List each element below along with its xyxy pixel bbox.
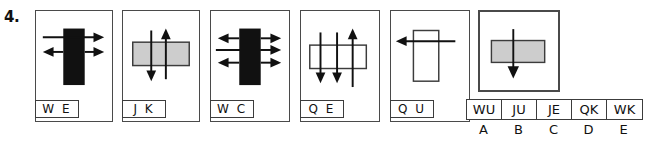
figure-panel-3-label: W C <box>210 100 254 118</box>
figure-panel-2[interactable]: J K <box>122 10 200 122</box>
answer-options: WU JU JE QK WK <box>466 99 643 120</box>
figure-panel-question[interactable] <box>478 10 560 92</box>
figure-panel-2-label: J K <box>122 100 166 118</box>
answer-option-c[interactable]: JE <box>537 100 572 119</box>
question-number: 4. <box>4 8 19 26</box>
answer-option-letters: A B C D E <box>466 122 641 137</box>
answer-option-b[interactable]: JU <box>502 100 537 119</box>
figure-panel-5[interactable]: Q U <box>390 10 470 122</box>
figure-panel-3[interactable]: W C <box>210 10 290 122</box>
figure-panel-1-label: W E <box>35 100 79 118</box>
answer-letter-e: E <box>606 122 641 137</box>
figure-panel-1[interactable]: W E <box>35 10 113 122</box>
answer-letter-b: B <box>501 122 536 137</box>
figure-panel-4-label: Q E <box>300 100 344 118</box>
answer-option-a[interactable]: WU <box>467 100 502 119</box>
answer-option-d[interactable]: QK <box>572 100 607 119</box>
figure-panel-4[interactable]: Q E <box>300 10 380 122</box>
answer-option-e[interactable]: WK <box>607 100 642 119</box>
answer-letter-c: C <box>536 122 571 137</box>
worksheet-question: 4. W E J K <box>0 0 648 148</box>
answer-letter-d: D <box>571 122 606 137</box>
figure-panel-5-label: Q U <box>390 100 434 118</box>
answer-letter-a: A <box>466 122 501 137</box>
figure-panel-question-diagram <box>480 12 558 90</box>
